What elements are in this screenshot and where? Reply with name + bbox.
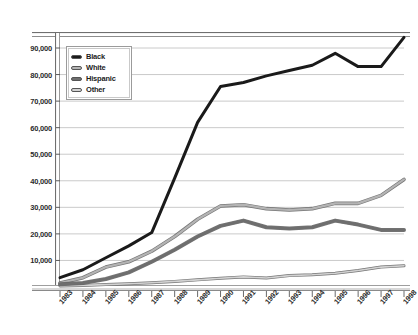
x-tick-label: 1993: [286, 288, 303, 306]
x-tick-label: 1986: [126, 288, 143, 306]
legend-item-black[interactable]: Black: [71, 51, 127, 62]
x-tick-label: 1984: [80, 288, 97, 306]
legend-swatch-icon: [71, 77, 82, 81]
legend-item-label: Hispanic: [86, 74, 116, 83]
x-tick-label: 1985: [103, 288, 120, 306]
legend-item-label: Other: [86, 85, 105, 94]
x-tick-label: 1983: [57, 288, 74, 306]
x-tick-label: 1995: [332, 288, 349, 306]
x-tick-label: 1994: [309, 288, 326, 306]
legend-item-other[interactable]: Other: [71, 84, 127, 95]
legend-item-white[interactable]: White: [71, 62, 127, 73]
x-tick-label: 1989: [195, 288, 212, 306]
x-tick-label: 1996: [355, 288, 372, 306]
chart-legend: BlackWhiteHispanicOther: [66, 46, 132, 100]
x-tick-label: 1997: [378, 288, 395, 306]
legend-item-hispanic[interactable]: Hispanic: [71, 73, 127, 84]
legend-item-label: Black: [86, 52, 105, 61]
legend-swatch-icon: [71, 66, 82, 70]
legend-swatch-icon: [71, 55, 82, 59]
legend-item-label: White: [86, 63, 105, 72]
legend-swatch-icon: [71, 88, 82, 92]
x-tick-label: 1990: [218, 288, 235, 306]
x-tick-label: 1992: [263, 288, 280, 306]
x-tick-label: 1991: [240, 288, 257, 306]
x-tick-label: 1998: [401, 288, 418, 306]
x-tick-label: 1987: [149, 288, 166, 306]
x-tick-label: 1988: [172, 288, 189, 306]
